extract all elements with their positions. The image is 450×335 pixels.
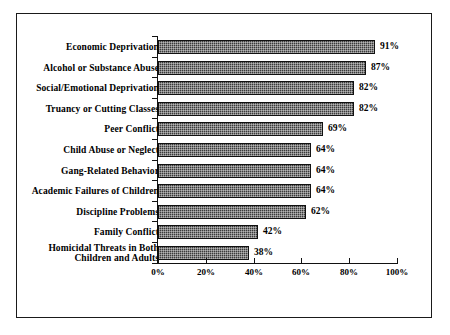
bar-fill: [158, 246, 249, 260]
bar-row: Truancy or Cutting Classes82%: [0, 100, 450, 119]
bar-value-label: 62%: [311, 206, 330, 217]
category-label: Truancy or Cutting Classes: [0, 104, 159, 114]
x-axis-tick: [158, 258, 159, 264]
bar-fill: [158, 81, 354, 95]
bar-fill: [158, 184, 311, 198]
category-label: Economic Deprivation: [0, 42, 159, 52]
x-axis-tick-label: 40%: [234, 267, 274, 277]
bar-row: Social/Emotional Deprivation82%: [0, 79, 450, 98]
bar-chart: Economic Deprivation91%Alcohol or Substa…: [0, 0, 450, 335]
y-axis-tick: [152, 57, 158, 58]
x-axis-tick-label: 80%: [329, 267, 369, 277]
x-axis-tick-label: 0%: [138, 267, 178, 277]
bar: [158, 184, 311, 198]
bar-value-label: 38%: [254, 247, 273, 258]
bar: [158, 225, 258, 239]
bar-row: Alcohol or Substance Abuse87%: [0, 59, 450, 78]
category-label: Academic Failures of Children: [0, 186, 159, 196]
bar-row: Academic Failures of Children64%: [0, 182, 450, 201]
category-label: Peer Conflict: [0, 124, 159, 134]
category-label: Homicidal Threats in Both Children and A…: [0, 243, 159, 263]
bar: [158, 164, 311, 178]
bar-value-label: 91%: [380, 41, 399, 52]
bar-value-label: 69%: [328, 123, 347, 134]
y-axis-tick: [152, 180, 158, 181]
x-axis-tick: [254, 258, 255, 264]
y-axis-tick: [152, 118, 158, 119]
bar-fill: [158, 205, 306, 219]
y-axis-tick: [152, 139, 158, 140]
x-axis-tick: [301, 258, 302, 264]
bar: [158, 81, 354, 95]
bar: [158, 40, 375, 54]
y-axis-tick: [152, 201, 158, 202]
bar-fill: [158, 122, 323, 136]
bar-fill: [158, 225, 258, 239]
category-label: Family Conflict: [0, 227, 159, 237]
bar-fill: [158, 40, 375, 54]
y-axis-tick: [152, 98, 158, 99]
category-label: Alcohol or Substance Abuse: [0, 63, 159, 73]
bar: [158, 143, 311, 157]
bar-value-label: 64%: [316, 144, 335, 155]
bar: [158, 61, 366, 75]
bar-row: Gang-Related Behavior64%: [0, 162, 450, 181]
bar-row: Peer Conflict69%: [0, 120, 450, 139]
y-axis-tick: [152, 36, 158, 37]
bar-row: Family Conflict42%: [0, 223, 450, 242]
y-axis-tick: [152, 77, 158, 78]
bar: [158, 122, 323, 136]
y-axis-tick: [152, 242, 158, 243]
x-axis-tick-label: 20%: [186, 267, 226, 277]
bar-value-label: 87%: [371, 62, 390, 73]
bar-value-label: 42%: [263, 226, 282, 237]
x-axis-tick-label: 100%: [377, 267, 417, 277]
x-axis-tick-label: 60%: [281, 267, 321, 277]
bar-fill: [158, 143, 311, 157]
x-axis-tick: [349, 258, 350, 264]
bar-row: Homicidal Threats in Both Children and A…: [0, 244, 450, 263]
bar-row: Child Abuse or Neglect64%: [0, 141, 450, 160]
x-axis-tick: [397, 258, 398, 264]
bar-row: Discipline Problems62%: [0, 203, 450, 222]
bar-row: Economic Deprivation91%: [0, 38, 450, 57]
category-label: Discipline Problems: [0, 207, 159, 217]
bar-fill: [158, 164, 311, 178]
bar-fill: [158, 61, 366, 75]
category-label: Child Abuse or Neglect: [0, 145, 159, 155]
y-axis-tick: [152, 160, 158, 161]
bar: [158, 102, 354, 116]
category-label: Gang-Related Behavior: [0, 166, 159, 176]
bar-value-label: 64%: [316, 165, 335, 176]
bar-fill: [158, 102, 354, 116]
x-axis-line: [157, 263, 397, 264]
bar-value-label: 82%: [359, 103, 378, 114]
bar-value-label: 82%: [359, 82, 378, 93]
category-label: Social/Emotional Deprivation: [0, 83, 159, 93]
y-axis-tick: [152, 221, 158, 222]
bar: [158, 246, 249, 260]
bar: [158, 205, 306, 219]
x-axis-tick: [206, 258, 207, 264]
bar-value-label: 64%: [316, 185, 335, 196]
